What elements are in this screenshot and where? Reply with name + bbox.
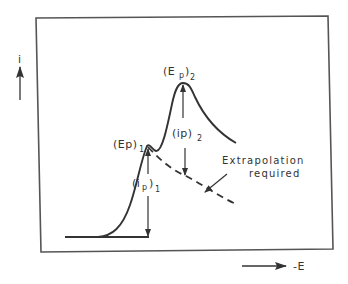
- svg-text:(E: (E: [163, 65, 175, 78]
- svg-text:(Ep): (Ep): [113, 138, 138, 151]
- svg-text:(i: (i: [132, 177, 140, 190]
- svg-text:p: p: [179, 71, 184, 80]
- svg-text:(ip): (ip): [172, 127, 193, 140]
- svg-text:2: 2: [197, 134, 202, 143]
- label-ep1: (Ep) 1: [113, 138, 144, 154]
- svg-text:required: required: [249, 168, 301, 179]
- svg-text:2: 2: [190, 73, 195, 82]
- svg-text:p: p: [142, 183, 147, 192]
- extrapolation-note: Extrapolation required: [222, 155, 305, 179]
- label-ip2: (ip) 2: [172, 127, 202, 143]
- svg-text:1: 1: [139, 145, 144, 154]
- x-axis-label: -E: [293, 260, 305, 273]
- svg-text:Extrapolation: Extrapolation: [222, 155, 305, 166]
- voltammogram-diagram: i -E (Ep) 1 (E p ) 2 (i p ) 1 (ip) 2 Ext…: [0, 0, 348, 284]
- svg-text:): ): [149, 177, 154, 190]
- current-curve: [65, 83, 236, 237]
- y-axis-label: i: [18, 53, 22, 66]
- label-ep2: (E p ) 2: [163, 65, 195, 82]
- svg-text:1: 1: [155, 185, 160, 194]
- label-ip1: (i p ) 1: [132, 177, 160, 194]
- extrapolation-pointer-icon: [205, 174, 227, 192]
